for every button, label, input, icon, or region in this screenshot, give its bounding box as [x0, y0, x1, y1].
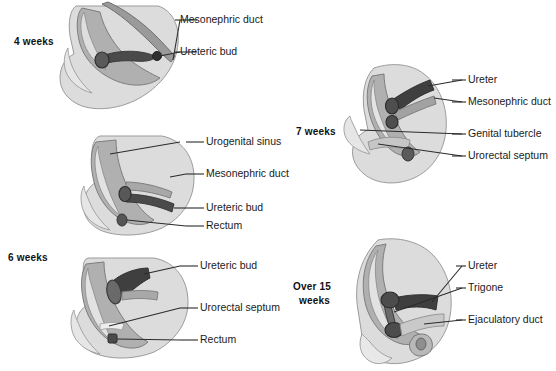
- ureter-orifice-15w: [381, 292, 399, 308]
- label-urorectal-septum-6wl: Urorectal septum: [200, 302, 280, 313]
- label-mesonephric-duct-7w: Mesonephric duct: [468, 96, 551, 107]
- nodule-lumen-15w: [416, 338, 426, 350]
- label-genital-tubercle-7w: Genital tubercle: [468, 128, 542, 139]
- label-mesonephric-duct-4w: Mesonephric duct: [180, 14, 263, 25]
- label-ureter-7w: Ureter: [468, 74, 497, 85]
- body-mass-7w: [352, 65, 446, 183]
- label-urorectal-septum-7w: Urorectal septum: [468, 150, 548, 161]
- stage-label-over-15-weeks-line2: weeks: [299, 295, 330, 307]
- stage-label-over-15-weeks-line1: Over 15: [293, 281, 331, 293]
- figure-4-weeks: [40, 0, 190, 115]
- leader-lines-15w-right: [456, 236, 484, 368]
- leader-lines-4w-right: [175, 0, 215, 70]
- label-trigone-15w: Trigone: [468, 282, 503, 293]
- mesonephric-orifice-7w: [386, 116, 398, 129]
- ureteric-bud-bulb-4w: [95, 52, 109, 68]
- ureter-orifice-7w: [386, 98, 399, 114]
- label-ureter-15w: Ureter: [468, 260, 497, 271]
- ureteric-bud-bulb-6wu: [119, 187, 131, 202]
- label-ejaculatory-duct-15w: Ejaculatory duct: [468, 314, 543, 325]
- label-mesonephric-duct-6wu: Mesonephric duct: [206, 168, 289, 179]
- label-ureteric-bud-6wu: Ureteric bud: [206, 202, 263, 213]
- rectum-6wl: [108, 334, 117, 343]
- label-rectum-6wu: Rectum: [206, 220, 242, 231]
- rectum-6wu: [117, 214, 127, 226]
- label-ureteric-bud-4w: Ureteric bud: [180, 46, 237, 57]
- label-rectum-6wl: Rectum: [200, 334, 236, 345]
- stage-label-6-weeks: 6 weeks: [8, 252, 48, 264]
- duct-band-6wl: [122, 291, 158, 301]
- label-urogenital-sinus-6wu: Urogenital sinus: [206, 136, 281, 147]
- label-ureteric-bud-6wl: Ureteric bud: [200, 260, 257, 271]
